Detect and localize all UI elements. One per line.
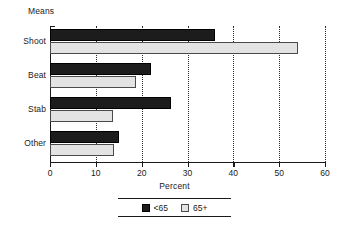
x-axis-tick-label: 20 bbox=[129, 168, 155, 178]
x-axis-tick-label: 10 bbox=[83, 168, 109, 178]
x-axis-tick bbox=[279, 163, 280, 167]
bar-other-old bbox=[50, 144, 114, 156]
x-axis-title: Percent bbox=[0, 181, 349, 191]
category-label-stab: Stab bbox=[2, 104, 46, 114]
plot-area bbox=[50, 26, 325, 162]
x-axis-tick-label: 0 bbox=[37, 168, 63, 178]
bar-other-young bbox=[50, 131, 119, 143]
x-axis-tick bbox=[50, 163, 51, 167]
category-label-shoot: Shoot bbox=[2, 36, 46, 46]
legend-label-young: <65 bbox=[154, 203, 168, 213]
category-axis-labels: ShootBeatStabOther bbox=[0, 26, 46, 162]
chart-legend: <65 65+ bbox=[118, 198, 231, 217]
legend-swatch-icon-young bbox=[142, 204, 150, 212]
legend-entry-young: <65 bbox=[142, 203, 168, 213]
bar-chart: Means ShootBeatStabOther Percent <65 65+… bbox=[0, 0, 349, 232]
x-axis-tick-label: 30 bbox=[175, 168, 201, 178]
bar-shoot-old bbox=[50, 42, 298, 54]
x-axis-tick-label: 40 bbox=[220, 168, 246, 178]
bar-beat-old bbox=[50, 76, 136, 88]
x-axis-tick bbox=[96, 163, 97, 167]
x-axis-tick-label: 60 bbox=[312, 168, 338, 178]
gridline bbox=[325, 26, 326, 162]
x-axis-tick bbox=[233, 163, 234, 167]
bar-beat-young bbox=[50, 63, 151, 75]
legend-label-old: 65+ bbox=[193, 203, 207, 213]
legend-swatch-icon-old bbox=[181, 204, 189, 212]
x-axis-tick bbox=[325, 163, 326, 167]
bar-shoot-young bbox=[50, 29, 215, 41]
x-axis-tick bbox=[188, 163, 189, 167]
bar-stab-old bbox=[50, 110, 113, 122]
legend-entry-old: 65+ bbox=[181, 203, 207, 213]
category-axis-title: Means bbox=[28, 6, 54, 16]
x-axis-tick-label: 50 bbox=[266, 168, 292, 178]
category-label-other: Other bbox=[2, 138, 46, 148]
bar-stab-young bbox=[50, 97, 171, 109]
x-axis-tick bbox=[142, 163, 143, 167]
category-label-beat: Beat bbox=[2, 70, 46, 80]
